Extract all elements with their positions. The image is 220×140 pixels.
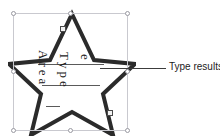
callout-leader-line [100, 68, 166, 69]
resize-handle-bottom-right[interactable] [125, 128, 130, 133]
resize-handle-middle-left[interactable] [11, 69, 16, 74]
resize-handle-top-left[interactable] [11, 11, 16, 16]
callout-label: Type results [169, 61, 220, 73]
resize-handle-bottom-center[interactable] [68, 128, 73, 133]
shape-adjust-handle-top[interactable] [60, 26, 66, 32]
resize-handle-top-center[interactable] [68, 11, 73, 16]
resize-handle-top-right[interactable] [125, 11, 130, 16]
resize-handle-middle-right[interactable] [125, 69, 130, 74]
resize-handle-bottom-left[interactable] [11, 128, 16, 133]
drawing-canvas[interactable]: Area Type e Type results [0, 0, 220, 140]
shape-adjust-handle-bottom[interactable] [107, 110, 113, 116]
